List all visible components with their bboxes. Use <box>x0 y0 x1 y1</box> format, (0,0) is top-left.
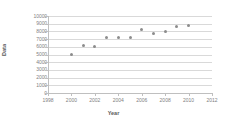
gridline-y <box>48 16 212 17</box>
gridline-y <box>48 70 212 71</box>
scatter-chart: 0100020003000400050006000700080009000100… <box>0 0 227 126</box>
x-tick-mark <box>212 93 213 96</box>
y-tick-mark <box>45 16 48 17</box>
gridline-y <box>48 39 212 40</box>
y-tick-label: 5000 <box>13 52 47 57</box>
y-tick-label: 4000 <box>13 60 47 65</box>
x-tick-mark <box>48 93 49 96</box>
data-point <box>82 44 85 47</box>
data-point <box>129 36 132 39</box>
y-tick-label: 2000 <box>13 75 47 80</box>
y-tick-mark <box>45 70 48 71</box>
y-tick-label: 8000 <box>13 29 47 34</box>
x-tick-mark <box>165 93 166 96</box>
y-tick-mark <box>45 78 48 79</box>
gridline-y <box>48 78 212 79</box>
gridline-y <box>48 85 212 86</box>
x-tick-mark <box>118 93 119 96</box>
y-tick-label: 7000 <box>13 37 47 42</box>
y-tick-mark <box>45 24 48 25</box>
x-axis-line <box>48 93 212 94</box>
data-point <box>187 24 190 27</box>
x-tick-mark <box>95 93 96 96</box>
gridline-y <box>48 47 212 48</box>
y-axis-line <box>48 16 49 94</box>
x-axis-title: Year <box>0 110 227 116</box>
y-tick-label: 10000 <box>13 14 47 19</box>
x-tick-mark <box>189 93 190 96</box>
data-point <box>164 30 167 33</box>
y-tick-label: 6000 <box>13 44 47 49</box>
y-tick-label: 9000 <box>13 21 47 26</box>
y-tick-mark <box>45 62 48 63</box>
gridline-y <box>48 31 212 32</box>
x-tick-mark <box>142 93 143 96</box>
x-tick-mark <box>71 93 72 96</box>
y-tick-mark <box>45 85 48 86</box>
data-point <box>70 53 73 56</box>
y-tick-mark <box>45 31 48 32</box>
gridline-y <box>48 62 212 63</box>
y-tick-label: 0 <box>13 91 47 96</box>
x-tick-label: 2012 <box>198 97 226 103</box>
y-tick-label: 1000 <box>13 83 47 88</box>
y-tick-mark <box>45 47 48 48</box>
y-tick-mark <box>45 55 48 56</box>
y-axis-title: Data <box>1 32 7 68</box>
y-tick-label: 3000 <box>13 67 47 72</box>
y-tick-mark <box>45 39 48 40</box>
